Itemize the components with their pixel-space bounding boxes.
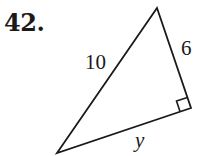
triangle-outline: [57, 8, 191, 153]
hypotenuse-label: 10: [85, 50, 106, 74]
right-triangle-figure: 10 6 y: [0, 0, 208, 156]
bottom-leg-label: y: [133, 128, 145, 152]
vertical-leg-label: 6: [181, 36, 192, 60]
